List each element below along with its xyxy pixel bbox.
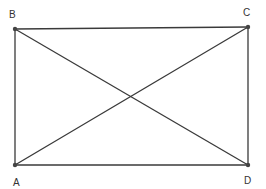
vertex-label-c: C <box>243 7 250 18</box>
vertex-b-point <box>13 27 17 31</box>
edge-bc <box>15 27 248 29</box>
rectangle-diagram: A B C D <box>0 0 266 189</box>
vertex-label-b: B <box>9 9 16 20</box>
vertex-label-a: A <box>13 177 20 188</box>
vertex-a-point <box>13 163 17 167</box>
vertex-c-point <box>246 25 250 29</box>
vertex-d-point <box>246 163 250 167</box>
vertex-label-d: D <box>244 175 251 186</box>
